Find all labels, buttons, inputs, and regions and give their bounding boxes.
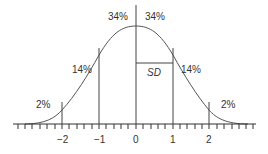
tick-label-2: 2	[206, 134, 212, 145]
pct-right-tail: 2%	[221, 99, 236, 110]
axis-minor-ticks	[18, 124, 253, 129]
tick-label-minus1: −1	[94, 134, 106, 145]
tick-label-minus2: −2	[57, 134, 69, 145]
pct-left-mid: 14%	[72, 64, 92, 75]
pct-left-tail: 2%	[36, 99, 51, 110]
pct-right-mid: 14%	[181, 64, 201, 75]
tick-label-0: 0	[133, 134, 139, 145]
pct-right-center: 34%	[145, 11, 165, 22]
sd-label: SD	[147, 67, 161, 78]
tick-label-1: 1	[170, 134, 176, 145]
bell-curve-diagram: 34% 34% 14% 14% 2% 2% SD −2 −1 0 1 2	[0, 0, 268, 154]
pct-left-center: 34%	[108, 11, 128, 22]
